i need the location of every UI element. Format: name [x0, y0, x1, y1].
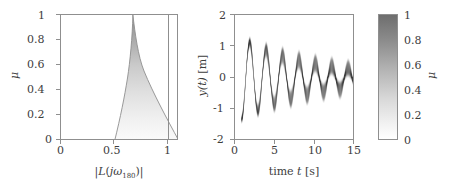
left-ytick-02: 0.2	[27, 109, 45, 120]
colorbar-gradient-fill	[379, 15, 397, 139]
uncertainty-wedge	[61, 15, 178, 140]
xlabel-subscript: 180	[122, 172, 135, 180]
colorbar-tick-06: 0.6	[404, 60, 422, 71]
left-x-axis-title: |L(jω180)|	[60, 166, 178, 180]
right-ytick-1: 1	[219, 41, 226, 52]
left-ytick-06: 0.6	[27, 59, 45, 70]
right-xtick-5: 5	[271, 145, 278, 156]
left-ytick-08: 0.8	[27, 34, 45, 45]
right-xtick-10: 10	[308, 145, 322, 156]
right-x-axis-title: time t [s]	[234, 166, 354, 177]
right-ytick-m1: -1	[213, 103, 224, 114]
xlabel-time-unit: [s]	[305, 165, 319, 178]
ylabel-unit: [m]	[196, 55, 209, 74]
left-xtick-0: 0	[57, 145, 64, 156]
left-ytick-1: 1	[38, 10, 45, 21]
colorbar-tick-0: 0	[404, 135, 411, 146]
right-ytick-m2: -2	[213, 134, 224, 145]
left-ytick-04: 0.4	[27, 84, 45, 95]
colorbar-title: μ	[426, 61, 437, 91]
right-plot-area	[234, 14, 354, 140]
ylabel-y: y	[196, 90, 209, 96]
left-plot-area	[60, 14, 178, 140]
xlabel-time-word: time	[269, 165, 294, 178]
figure-root: μ 1 0.8 0.6 0.4 0.2 0	[0, 0, 449, 190]
left-y-axis-title: μ	[9, 61, 20, 91]
colorbar-track	[378, 14, 398, 140]
left-xtick-1: 1	[164, 145, 171, 156]
right-xtick-15: 15	[347, 145, 361, 156]
response-density-heatmap	[235, 15, 354, 140]
colorbar-tick-02: 0.2	[404, 110, 422, 121]
xlabel-omega: ω	[113, 165, 122, 178]
right-ytick-2: 2	[219, 10, 226, 21]
unity-gain-reference-line	[168, 15, 169, 139]
xlabel-bar-close: |	[140, 165, 144, 178]
colorbar-tick-04: 0.4	[404, 85, 422, 96]
colorbar-tick-1: 1	[404, 10, 411, 21]
left-ytick-0: 0	[45, 134, 52, 145]
left-xtick-05: 0.5	[103, 145, 121, 156]
right-xtick-0: 0	[231, 145, 238, 156]
right-ytick-0: 0	[219, 72, 226, 83]
xlabel-time-var: t	[297, 165, 301, 178]
right-y-axis-title: y(t) [m]	[197, 46, 208, 106]
colorbar-tick-08: 0.8	[404, 35, 422, 46]
ylabel-paren: (t)	[196, 77, 209, 90]
